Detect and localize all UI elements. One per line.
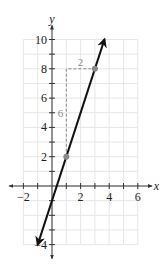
y-tick-label: 4 (41, 120, 47, 134)
line-chart: −2246−4246810 x y 6 2 (0, 0, 164, 267)
y-tick-label: 10 (35, 33, 47, 47)
rise-label: 6 (58, 107, 64, 119)
x-axis-label: x (153, 179, 160, 193)
x-tick-label: −2 (17, 190, 30, 204)
x-tick-label: 6 (135, 190, 141, 204)
labels: x y 6 2 (48, 12, 159, 194)
data-point (63, 154, 69, 160)
x-tick-label: 2 (78, 190, 84, 204)
y-tick-label: 8 (41, 62, 47, 76)
x-tick-label: 4 (106, 190, 112, 204)
y-tick-label: 2 (41, 150, 47, 164)
data-point (92, 66, 98, 72)
y-tick-label: 6 (41, 91, 47, 105)
y-tick-label: −4 (34, 238, 47, 252)
run-label: 2 (78, 56, 84, 68)
y-axis-label: y (48, 12, 55, 26)
